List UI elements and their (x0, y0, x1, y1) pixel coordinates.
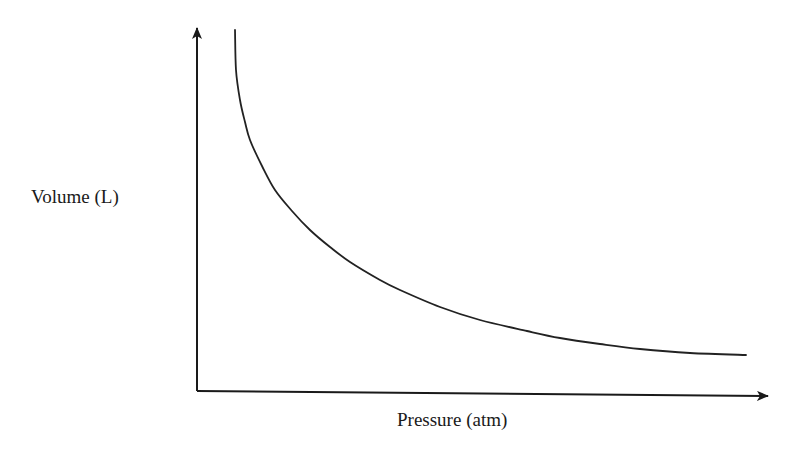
x-axis-label: Pressure (atm) (397, 409, 507, 431)
volume-pressure-curve (235, 30, 746, 355)
y-axis-label: Volume (L) (31, 186, 119, 208)
chart-canvas (0, 0, 805, 460)
x-axis (197, 391, 768, 396)
